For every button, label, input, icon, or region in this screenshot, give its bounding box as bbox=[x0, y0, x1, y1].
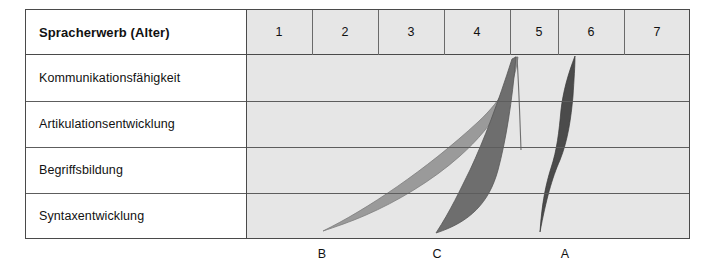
column-header-1: 1 bbox=[246, 10, 312, 55]
axis-label-c: C bbox=[422, 247, 452, 261]
label-header-divider bbox=[26, 10, 246, 55]
column-header-4: 4 bbox=[444, 10, 510, 55]
label-gridline-1 bbox=[26, 101, 246, 102]
row-label-column: Spracherwerb (Alter) Kommunikationsfähig… bbox=[26, 10, 247, 238]
wedge-a-area bbox=[540, 56, 575, 232]
wedge-c-seam bbox=[517, 57, 521, 150]
column-header-3: 3 bbox=[378, 10, 444, 55]
row-label-artikulationsentwicklung: Artikulationsentwicklung bbox=[39, 101, 175, 147]
axis-label-a: A bbox=[550, 247, 580, 261]
wedge-c-area bbox=[436, 57, 516, 233]
acquisition-table: 1 2 3 4 5 6 7 Spracherwerb (Alter) Kommu… bbox=[25, 9, 690, 239]
language-acquisition-figure: 1 2 3 4 5 6 7 Spracherwerb (Alter) Kommu… bbox=[0, 0, 709, 278]
row-label-syntaxentwicklung: Syntaxentwicklung bbox=[39, 193, 144, 239]
label-gridline-3 bbox=[26, 193, 246, 194]
row-label-kommunikationsfaehigkeit: Kommunikationsfähigkeit bbox=[39, 55, 180, 101]
axis-label-b: B bbox=[307, 247, 337, 261]
column-header-6: 6 bbox=[558, 10, 624, 55]
label-gridline-2 bbox=[26, 147, 246, 148]
column-header-2: 2 bbox=[312, 10, 378, 55]
row-label-begriffsbildung: Begriffsbildung bbox=[39, 147, 123, 193]
column-header-7: 7 bbox=[624, 10, 690, 55]
